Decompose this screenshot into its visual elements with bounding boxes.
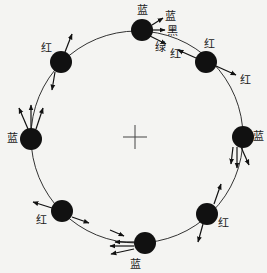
ball-upper-left bbox=[50, 51, 72, 73]
ring-diagram: 蓝红蓝红蓝红蓝红蓝黑绿红红 bbox=[0, 0, 267, 273]
ball-label-upper-right: 红 bbox=[204, 39, 215, 50]
arrow-icon bbox=[198, 224, 203, 242]
arrow-icon bbox=[36, 108, 43, 129]
arrow-icon bbox=[52, 72, 55, 90]
ball-label-lower-left: 红 bbox=[36, 215, 47, 226]
ball-label-upper-left: 红 bbox=[41, 43, 52, 54]
arrow-icon bbox=[111, 249, 134, 254]
ball-lower-right bbox=[196, 203, 218, 225]
arrow-icon bbox=[110, 230, 124, 236]
ball-label-top: 蓝 bbox=[137, 5, 148, 16]
arrow-label: 蓝 bbox=[165, 11, 176, 22]
arrow-label: 绿 bbox=[155, 42, 166, 53]
arrow-label: 红 bbox=[170, 49, 181, 60]
ball-right bbox=[232, 126, 254, 148]
ball-top bbox=[131, 19, 153, 41]
arrow-label: 黑 bbox=[167, 26, 178, 37]
arrow-icon bbox=[231, 147, 233, 164]
ball-label-bottom: 蓝 bbox=[130, 259, 141, 270]
center-cross bbox=[123, 125, 147, 149]
arrow-icon bbox=[214, 184, 221, 204]
ball-label-right: 蓝 bbox=[253, 131, 264, 142]
ball-label-lower-right: 红 bbox=[218, 218, 229, 229]
arrow-icon bbox=[65, 34, 72, 52]
arrow-icon bbox=[152, 18, 163, 25]
arrow-icon bbox=[19, 108, 28, 129]
arrow-icon bbox=[241, 147, 249, 165]
arrow-icon bbox=[33, 202, 52, 208]
arrow-label: 红 bbox=[240, 75, 251, 86]
ball-upper-right bbox=[195, 51, 217, 73]
ball-left bbox=[20, 128, 42, 150]
arrow-icon bbox=[178, 50, 196, 58]
ball-lower-left bbox=[51, 200, 73, 222]
ball-label-left: 蓝 bbox=[7, 133, 18, 144]
ball-bottom bbox=[134, 232, 156, 254]
